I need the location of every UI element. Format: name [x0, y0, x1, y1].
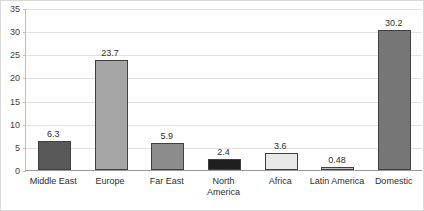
bar: [95, 60, 128, 170]
x-axis-category-label: Middle East: [25, 176, 82, 187]
gridline: [26, 125, 422, 126]
y-axis-tick-label: 25: [0, 51, 20, 60]
bar-value-label: 3.6: [256, 142, 304, 151]
x-axis-category-label: North America: [195, 176, 252, 198]
gridline: [26, 32, 422, 33]
y-axis-tick-label: 0: [0, 167, 20, 176]
bar: [38, 141, 71, 170]
gridline: [26, 102, 422, 103]
x-axis-category-label: Far East: [138, 176, 195, 187]
y-axis-tick: [23, 102, 26, 103]
gridline: [26, 9, 422, 10]
bar: [321, 167, 354, 170]
y-axis-tick: [23, 78, 26, 79]
y-axis-tick-label: 35: [0, 5, 20, 14]
y-axis-tick: [23, 148, 26, 149]
bar-value-label: 30.2: [370, 19, 418, 28]
gridline: [26, 78, 422, 79]
y-axis-tick: [23, 125, 26, 126]
bar-value-label: 6.3: [29, 130, 77, 139]
y-axis-tick: [23, 55, 26, 56]
y-axis-tick-label: 5: [0, 144, 20, 153]
bar-value-label: 23.7: [86, 49, 134, 58]
bar: [265, 153, 298, 170]
y-axis-tick-label: 30: [0, 28, 20, 37]
bar: [151, 143, 184, 170]
x-axis-category-label: Africa: [252, 176, 309, 187]
bar-value-label: 2.4: [200, 148, 248, 157]
bar: [378, 30, 411, 170]
y-axis-tick-label: 15: [0, 98, 20, 107]
y-axis-tick-label: 20: [0, 74, 20, 83]
y-axis-tick: [23, 32, 26, 33]
y-axis-tick-label: 10: [0, 121, 20, 130]
y-axis-tick: [23, 9, 26, 10]
x-axis-category-label: Latin America: [309, 176, 366, 187]
x-axis-category-label: Domestic: [365, 176, 422, 187]
bar-value-label: 0.48: [313, 156, 361, 165]
bar-value-label: 5.9: [143, 132, 191, 141]
y-axis-tick: [23, 171, 26, 172]
bar-chart: 05101520253035 6.323.75.92.43.60.4830.2 …: [0, 0, 424, 211]
bar: [208, 159, 241, 170]
x-axis-category-label: Europe: [82, 176, 139, 187]
